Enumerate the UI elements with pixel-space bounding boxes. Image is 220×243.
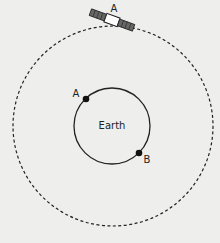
point-b-label: B	[144, 154, 151, 165]
point-b-dot	[136, 150, 143, 157]
point-a-dot	[83, 96, 90, 103]
point-a-label: A	[73, 88, 80, 99]
earth-label: Earth	[99, 120, 126, 131]
orbit-diagram: A Earth A B	[0, 0, 220, 243]
satellite-label: A	[111, 3, 118, 14]
